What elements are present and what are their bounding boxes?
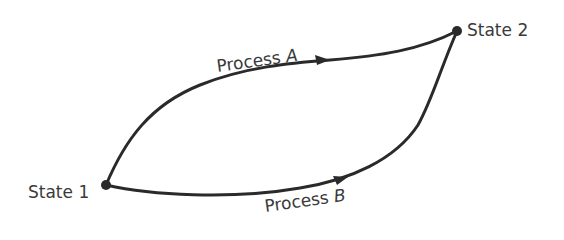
state-2-dot bbox=[452, 26, 462, 36]
process-a-arrow-icon bbox=[315, 55, 330, 65]
state-1-dot bbox=[101, 180, 111, 190]
process-a-label-var: A bbox=[284, 45, 298, 66]
state-1-label: State 1 bbox=[28, 182, 89, 202]
process-b-arrow-icon bbox=[333, 176, 348, 185]
state-2-label: State 2 bbox=[467, 20, 528, 40]
